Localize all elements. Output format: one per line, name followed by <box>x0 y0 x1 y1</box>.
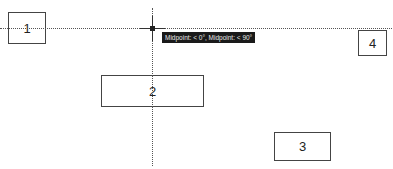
shape-box-3[interactable]: 3 <box>274 132 331 161</box>
drawing-canvas[interactable]: 1 2 3 4 Midpoint: < 0°, Midpoint: < 90° <box>0 0 393 169</box>
shape-box-4[interactable]: 4 <box>358 30 387 56</box>
vertical-tracking-line-overlay <box>152 75 153 107</box>
horizontal-tracking-line <box>0 28 392 29</box>
snap-tooltip: Midpoint: < 0°, Midpoint: < 90° <box>162 32 255 43</box>
shape-label: 4 <box>369 36 376 51</box>
shape-label: 3 <box>299 139 306 154</box>
horizontal-tracking-line-overlay <box>0 28 46 29</box>
